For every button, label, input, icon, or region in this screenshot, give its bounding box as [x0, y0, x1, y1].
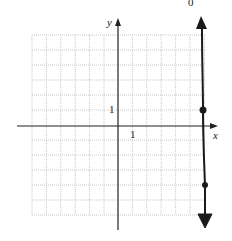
coordinate-plane: y x 1 1 0	[0, 0, 232, 241]
x-tick-label: 1	[130, 129, 136, 140]
down-arrow-icon	[198, 214, 212, 228]
y-axis-arrow-icon	[115, 18, 121, 26]
x-axis-label: x	[213, 130, 218, 141]
up-arrow-icon	[196, 16, 207, 29]
graph-canvas	[0, 0, 232, 241]
stray-mark: 0	[188, 0, 194, 8]
point-marker	[202, 182, 208, 188]
y-axis-label: y	[107, 17, 112, 28]
y-tick-label: 1	[109, 104, 115, 115]
point-marker	[200, 107, 207, 114]
